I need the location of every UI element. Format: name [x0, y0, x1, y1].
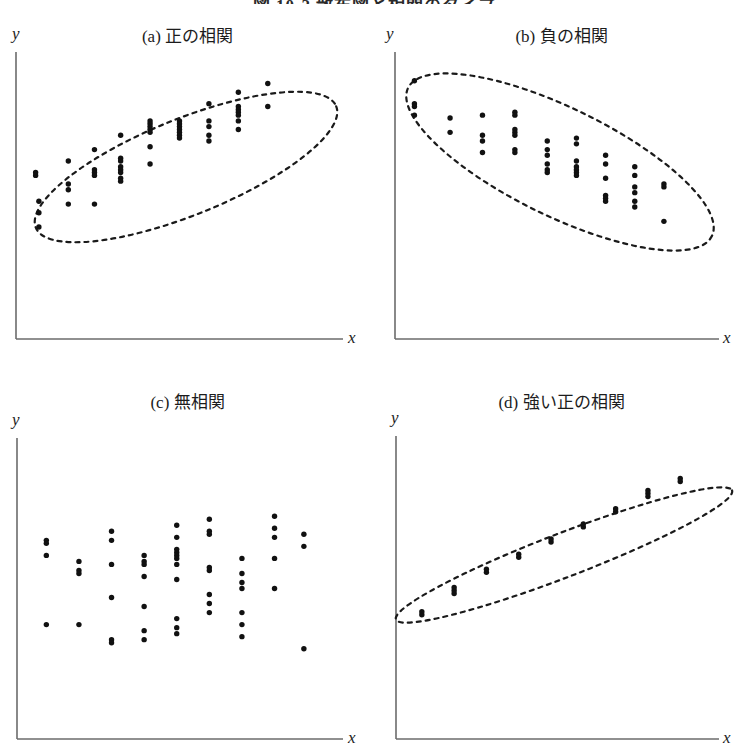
scatter-point	[174, 625, 179, 630]
scatter-point	[545, 138, 550, 143]
scatter-point	[76, 559, 81, 564]
scatter-point	[76, 622, 81, 627]
scatter-point	[141, 628, 146, 633]
scatter-point	[516, 551, 521, 556]
scatter-point	[141, 562, 146, 567]
scatter-point	[447, 115, 452, 120]
panel-b-points	[412, 78, 667, 224]
scatter-point	[678, 476, 683, 481]
scatter-point	[512, 150, 517, 155]
scatter-point	[661, 219, 666, 224]
scatter-point	[206, 101, 211, 106]
scatter-point	[632, 164, 637, 169]
scatter-point	[33, 170, 38, 175]
scatter-point	[412, 112, 417, 117]
scatter-point	[239, 586, 244, 591]
panel-a-plot	[0, 22, 375, 352]
scatter-point	[207, 601, 212, 606]
scatter-point	[632, 173, 637, 178]
panel-a-ellipse	[18, 62, 354, 272]
scatter-point	[272, 526, 277, 531]
scatter-point	[512, 112, 517, 117]
scatter-point	[174, 556, 179, 561]
scatter-point	[447, 130, 452, 135]
panel-b-plot	[374, 22, 749, 352]
scatter-point	[548, 536, 553, 541]
scatter-point	[272, 514, 277, 519]
scatter-point	[92, 147, 97, 152]
scatter-point	[574, 135, 579, 140]
scatter-point	[207, 610, 212, 615]
scatter-point	[451, 585, 456, 590]
scatter-point	[581, 521, 586, 526]
scatter-point	[109, 562, 114, 567]
scatter-point	[545, 161, 550, 166]
scatter-point	[301, 646, 306, 651]
scatter-point	[301, 532, 306, 537]
scatter-point	[603, 199, 608, 204]
scatter-point	[174, 631, 179, 636]
scatter-point	[109, 538, 114, 543]
scatter-point	[44, 541, 49, 546]
scatter-point	[36, 210, 41, 215]
scatter-point	[36, 224, 41, 229]
scatter-point	[147, 144, 152, 149]
scatter-point	[66, 201, 71, 206]
scatter-point	[239, 580, 244, 585]
panel-b-axes	[395, 52, 719, 339]
panel-d-ellipse	[388, 470, 740, 640]
scatter-point	[236, 127, 241, 132]
scatter-point	[141, 604, 146, 609]
scatter-point	[603, 153, 608, 158]
scatter-point	[236, 118, 241, 123]
panel-a-positive-correlation: (a) 正の相関 y x	[0, 22, 375, 352]
scatter-point	[645, 488, 650, 493]
scatter-point	[174, 562, 179, 567]
panel-c-plot	[0, 388, 375, 754]
scatter-point	[419, 609, 424, 614]
panel-d-axes	[396, 436, 719, 739]
scatter-point	[239, 634, 244, 639]
scatter-point	[207, 592, 212, 597]
scatter-point	[206, 118, 211, 123]
scatter-point	[109, 529, 114, 534]
scatter-point	[480, 138, 485, 143]
scatter-point	[206, 133, 211, 138]
scatter-point	[603, 176, 608, 181]
scatter-point	[480, 112, 485, 117]
scatter-point	[574, 173, 579, 178]
scatter-point	[272, 535, 277, 540]
scatter-point	[118, 170, 123, 175]
scatter-point	[512, 133, 517, 138]
scatter-point	[66, 158, 71, 163]
scatter-point	[632, 190, 637, 195]
scatter-point	[545, 170, 550, 175]
panel-c-axes	[17, 438, 343, 739]
scatter-point	[118, 133, 123, 138]
panel-d-points	[419, 476, 683, 618]
scatter-point	[574, 158, 579, 163]
scatter-point	[412, 78, 417, 83]
panel-d-strong-positive-correlation: (d) 強い正の相関 y x	[374, 388, 749, 754]
scatter-point	[603, 161, 608, 166]
scatter-point	[109, 640, 114, 645]
scatter-point	[236, 112, 241, 117]
scatter-point	[613, 506, 618, 511]
scatter-point	[236, 89, 241, 94]
scatter-point	[480, 133, 485, 138]
scatter-point	[66, 187, 71, 192]
figure-root: 図 10-2 散布図と相関のタイプ (a) 正の相関 y x (b) 負の相関 …	[0, 0, 749, 754]
scatter-point	[272, 586, 277, 591]
scatter-point	[76, 571, 81, 576]
scatter-point	[141, 637, 146, 642]
panel-c-points	[44, 514, 307, 652]
scatter-point	[574, 141, 579, 146]
scatter-point	[632, 204, 637, 209]
scatter-point	[44, 622, 49, 627]
scatter-point	[239, 622, 244, 627]
scatter-point	[661, 184, 666, 189]
scatter-point	[272, 556, 277, 561]
scatter-point	[207, 568, 212, 573]
panel-a-points	[33, 81, 271, 230]
scatter-point	[36, 199, 41, 204]
